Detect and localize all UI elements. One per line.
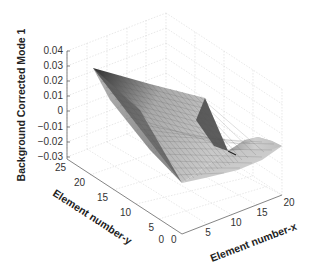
z-tick: −0.02 <box>38 136 64 147</box>
y-axis-line <box>67 159 182 234</box>
y-tick: 0 <box>158 234 164 245</box>
z-tick: −0.03 <box>38 151 64 162</box>
x-tick: 5 <box>205 227 211 238</box>
y-tick: 25 <box>55 162 67 173</box>
z-tick-labels: 0.04 0.03 0.02 0.01 0 −0.01 −0.02 −0.03 <box>38 45 64 162</box>
z-tick: 0.03 <box>44 60 64 71</box>
x-tick: 15 <box>256 207 268 218</box>
surface <box>93 68 282 183</box>
x-tick: 20 <box>283 197 295 208</box>
z-tick: 0.01 <box>44 90 64 101</box>
x-tick: 0 <box>171 234 177 245</box>
y-tick: 10 <box>120 207 132 218</box>
y-tick: 5 <box>148 222 154 233</box>
z-tick: 0.04 <box>44 45 64 56</box>
surface-plot: 0.04 0.03 0.02 0.01 0 −0.01 −0.02 −0.03 … <box>0 0 311 276</box>
z-tick: −0.01 <box>38 121 64 132</box>
x-axis-label: Element number-x <box>208 220 298 264</box>
y-tick: 20 <box>74 177 86 188</box>
z-axis-label: Background Corrected Mode 1 <box>15 28 27 181</box>
x-tick: 10 <box>230 217 242 228</box>
z-tick: 0.02 <box>44 75 64 86</box>
z-tick: 0 <box>57 105 63 116</box>
y-tick: 15 <box>97 192 109 203</box>
